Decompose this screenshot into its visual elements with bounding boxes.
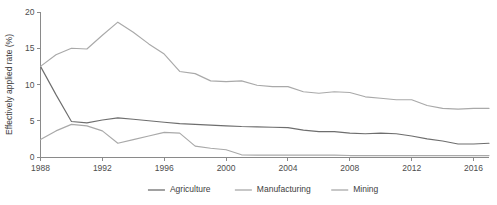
y-axis-title: Effectively applied rate (%) xyxy=(4,34,14,135)
series-line-manufacturing xyxy=(41,124,490,155)
y-tick-label: 5 xyxy=(30,116,35,126)
y-tick-label: 20 xyxy=(25,7,35,17)
x-tick-label: 2000 xyxy=(217,163,236,173)
legend-label-agriculture: Agriculture xyxy=(170,184,211,194)
x-tick-label: 1996 xyxy=(155,163,174,173)
x-tick-label: 2008 xyxy=(340,163,359,173)
x-tick-label: 1988 xyxy=(31,163,50,173)
series-line-mining xyxy=(41,22,490,109)
y-tick-label: 10 xyxy=(25,80,35,90)
legend-label-manufacturing: Manufacturing xyxy=(257,184,311,194)
y-axis-title-text: Effectively applied rate (%) xyxy=(4,34,14,135)
y-tick-label: 15 xyxy=(25,43,35,53)
y-axis: 05101520 xyxy=(25,7,40,162)
series-lines xyxy=(41,22,490,155)
line-chart: 05101520 1988199219962000200420082012201… xyxy=(0,0,497,205)
y-tick-label: 0 xyxy=(30,152,35,162)
legend-label-mining: Mining xyxy=(353,184,378,194)
x-tick-label: 2012 xyxy=(402,163,421,173)
x-tick-label: 2016 xyxy=(464,163,483,173)
x-axis: 19881992199620002004200820122016 xyxy=(31,157,489,173)
x-tick-label: 1992 xyxy=(93,163,112,173)
chart-figure: 05101520 1988199219962000200420082012201… xyxy=(0,0,497,205)
x-tick-label: 2004 xyxy=(278,163,297,173)
series-line-agriculture xyxy=(41,66,490,144)
chart-legend: AgricultureManufacturingMining xyxy=(148,184,379,194)
